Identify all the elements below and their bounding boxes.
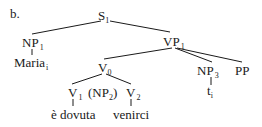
- leaf-venirci: venirci: [113, 107, 149, 122]
- syntax-tree: b. S1 NP1 Mariai VP1 V0 V1 (NP2): [0, 0, 262, 127]
- edge-vp1-pp: [177, 48, 242, 62]
- leaf-trace: ti: [207, 83, 214, 100]
- edge-vp1-v0: [104, 48, 172, 59]
- edge-s-vp1: [110, 21, 170, 32]
- edge-v0-v1: [72, 74, 102, 84]
- leaf-e-dovuta: è dovuta: [51, 107, 96, 122]
- node-pp: PP: [235, 63, 249, 78]
- example-label: b.: [10, 6, 20, 21]
- node-v0: V0: [98, 60, 111, 77]
- leaf-maria: Mariai: [14, 55, 49, 72]
- node-v2: V2: [126, 85, 140, 102]
- node-np2-optional: (NP2): [88, 85, 117, 102]
- node-s1: S1: [98, 8, 109, 25]
- node-vp1: VP1: [163, 34, 185, 51]
- node-np1: NP1: [22, 35, 44, 52]
- node-v1: V1: [68, 85, 82, 102]
- node-np3: NP3: [197, 63, 219, 80]
- edge-s-np1: [32, 21, 101, 34]
